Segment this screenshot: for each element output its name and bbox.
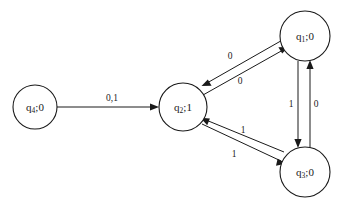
edge-label-q3-q2: 1	[241, 125, 246, 135]
state-label-q3-output: 0	[308, 166, 314, 178]
arrowhead-into-q2	[150, 103, 159, 110]
transition-q1-to-q2: 0	[202, 38, 287, 86]
state-label-q1-output: 0	[308, 30, 314, 42]
edge-label-q2-q1: 0	[238, 76, 243, 86]
edge-line-q2-q1	[203, 50, 283, 95]
transition-q2-to-q1: 0	[203, 47, 289, 95]
state-label-q4-output: 0	[38, 101, 44, 113]
state-node-q2[interactable]: q2;1	[159, 83, 207, 131]
transition-q3-to-q1: 0	[306, 60, 318, 147]
arrowhead-into-q3-vertical	[294, 139, 301, 148]
diagram-canvas: 0,1 0 0 1 1 1	[0, 0, 338, 208]
edge-label-q1-q3: 1	[289, 99, 294, 109]
edge-label-q2-q3: 1	[232, 149, 237, 159]
edge-label-q1-q2: 0	[228, 51, 233, 61]
state-label-q2-output: 1	[186, 101, 192, 113]
state-node-q3[interactable]: q3;0	[280, 147, 330, 197]
edge-line-q1-q2	[207, 38, 286, 83]
transition-q4-to-q2: 0,1	[57, 93, 159, 110]
state-node-q4[interactable]: q4;0	[13, 85, 57, 129]
edge-label-q4-q2: 0,1	[106, 93, 118, 103]
edge-label-q3-q1: 0	[314, 99, 319, 109]
arrowhead-into-q2-from-q1	[202, 79, 212, 86]
state-machine-diagram: 0,1 0 0 1 1 1	[0, 0, 338, 208]
state-node-q1[interactable]: q1;0	[280, 11, 330, 61]
transition-q3-to-q2: 1	[201, 118, 285, 152]
transition-q1-to-q3: 1	[289, 61, 302, 148]
